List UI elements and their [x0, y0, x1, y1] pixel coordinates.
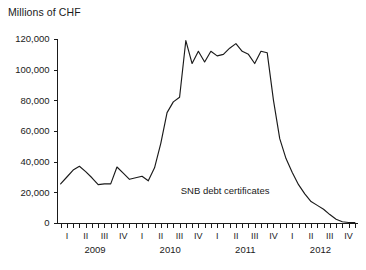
x-year-label: 2010 [160, 244, 181, 255]
x-year-label: 2012 [310, 244, 331, 255]
x-quarter-label: I [141, 231, 144, 241]
x-quarter-label: III [101, 231, 109, 241]
x-quarter-label: III [176, 231, 184, 241]
x-quarter-label: IV [119, 231, 128, 241]
x-quarter-label: IV [269, 231, 278, 241]
series-annotations: SNB debt certificates [181, 185, 270, 196]
chart-container: Millions of CHF 020,00040,00060,00080,00… [0, 0, 366, 270]
x-quarter-label: II [233, 231, 238, 241]
y-tick-label: 60,000 [20, 125, 49, 136]
x-quarter-label: II [309, 231, 314, 241]
chart-plot-area: 020,00040,00060,00080,000100,000120,000 … [0, 0, 366, 270]
x-quarter-label: II [158, 231, 163, 241]
x-quarter-label: II [83, 231, 88, 241]
x-year-label: 2009 [84, 244, 105, 255]
x-axis-ticks [62, 224, 356, 228]
y-tick-label: 80,000 [20, 95, 49, 106]
y-tick-label: 20,000 [20, 187, 49, 198]
x-quarter-label: I [216, 231, 219, 241]
y-tick-label: 100,000 [15, 64, 49, 75]
x-year-label: 2011 [235, 244, 255, 255]
y-axis-ticks: 020,00040,00060,00080,000100,000120,000 [15, 33, 57, 228]
x-quarter-label: I [291, 231, 294, 241]
y-tick-label: 0 [44, 217, 49, 228]
x-quarter-label: I [66, 231, 69, 241]
x-axis-year-labels: 2009201020112012 [84, 244, 331, 255]
y-tick-label: 40,000 [20, 156, 49, 167]
x-axis-quarter-labels: IIIIIIIVIIIIIIIVIIIIIIIVIIIIIIIV [66, 231, 353, 241]
x-quarter-label: III [326, 231, 334, 241]
x-quarter-label: IV [194, 231, 203, 241]
x-quarter-label: IV [344, 231, 353, 241]
x-quarter-label: III [251, 231, 259, 241]
series-label-annotation: SNB debt certificates [181, 185, 270, 196]
y-tick-label: 120,000 [15, 33, 49, 44]
